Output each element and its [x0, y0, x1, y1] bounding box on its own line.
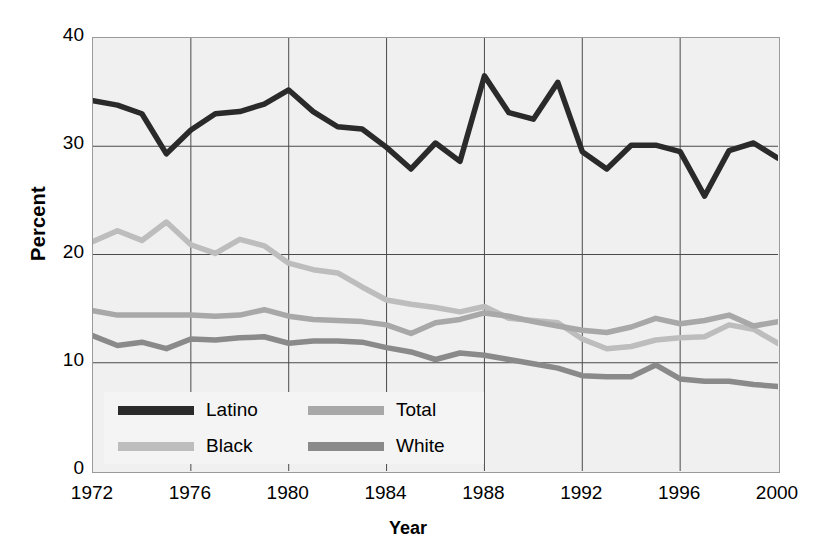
legend-swatch-total-icon [308, 406, 384, 415]
legend-item-total[interactable]: Total [294, 392, 484, 428]
series-line-black [93, 222, 778, 349]
x-tick-label: 1976 [145, 482, 235, 504]
series-line-latino [93, 76, 778, 196]
y-tick-label: 0 [24, 457, 84, 479]
x-tick-label: 1980 [243, 482, 333, 504]
legend-swatch-black-icon [118, 442, 194, 451]
x-tick-label: 1996 [634, 482, 724, 504]
legend-item-white[interactable]: White [294, 428, 484, 464]
legend-label: Latino [206, 399, 258, 421]
x-axis-title: Year [0, 518, 816, 539]
y-tick-label: 10 [24, 349, 84, 371]
x-tick-label: 1988 [438, 482, 528, 504]
legend-item-latino[interactable]: Latino [104, 392, 294, 428]
y-axis-title: Percent [27, 164, 50, 284]
x-tick-label: 1992 [536, 482, 626, 504]
line-chart: Percent Year 010203040 19721976198019841… [0, 0, 816, 555]
series-line-white [93, 336, 778, 387]
legend-swatch-white-icon [308, 442, 384, 451]
legend: LatinoTotalBlackWhite [104, 392, 484, 464]
legend-item-black[interactable]: Black [104, 428, 294, 464]
legend-swatch-latino-icon [118, 406, 194, 415]
legend-label: White [396, 435, 445, 457]
series-line-total [93, 310, 778, 334]
x-tick-label: 1984 [341, 482, 431, 504]
x-tick-label: 1972 [47, 482, 137, 504]
legend-label: Black [206, 435, 252, 457]
legend-label: Total [396, 399, 436, 421]
y-tick-label: 30 [24, 132, 84, 154]
x-tick-label: 2000 [732, 482, 816, 504]
y-tick-label: 20 [24, 241, 84, 263]
y-tick-label: 40 [24, 24, 84, 46]
